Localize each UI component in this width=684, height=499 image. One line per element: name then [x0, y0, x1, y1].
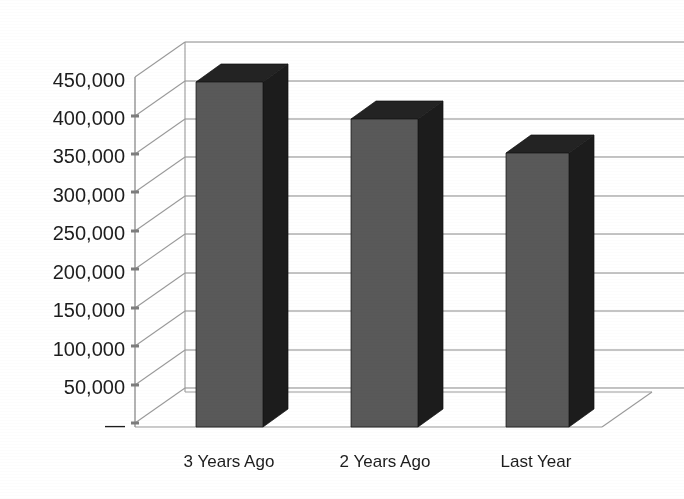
y-tick-label-200000: 200,000 — [53, 261, 125, 283]
bar-front-face-1 — [351, 119, 418, 427]
bar-chart-3d: 450,000 400,000 350,000 300,000 250,000 … — [0, 0, 684, 499]
y-tick-label-250000: 250,000 — [53, 222, 125, 244]
x-axis-labels-group: 3 Years Ago 2 Years Ago Last Year — [184, 452, 572, 471]
category-label-2-years-ago: 2 Years Ago — [340, 452, 431, 471]
y-axis-labels-group: 450,000 400,000 350,000 300,000 250,000 … — [53, 69, 125, 436]
y-tick-label-100000: 100,000 — [53, 338, 125, 360]
bar-side-face-2 — [569, 135, 594, 427]
bar-3-years-ago[interactable] — [196, 64, 288, 427]
bar-front-face-2 — [506, 153, 569, 427]
bar-front-face-0 — [196, 82, 263, 427]
bar-side-face-1 — [418, 101, 443, 427]
category-label-last-year: Last Year — [501, 452, 572, 471]
y-tick-label-150000: 150,000 — [53, 299, 125, 321]
category-label-3-years-ago: 3 Years Ago — [184, 452, 275, 471]
y-tick-label-300000: 300,000 — [53, 184, 125, 206]
bar-side-face-0 — [263, 64, 288, 427]
y-tick-label-50000: 50,000 — [64, 376, 125, 398]
y-tick-label-350000: 350,000 — [53, 145, 125, 167]
y-tick-label-450000: 450,000 — [53, 69, 125, 91]
y-tick-label-400000: 400,000 — [53, 107, 125, 129]
chart-canvas: 450,000 400,000 350,000 300,000 250,000 … — [0, 0, 684, 499]
bar-last-year[interactable] — [506, 135, 594, 427]
left-side-wall — [135, 42, 185, 427]
bar-2-years-ago[interactable] — [351, 101, 443, 427]
y-tick-label-zero: — — [105, 414, 125, 436]
